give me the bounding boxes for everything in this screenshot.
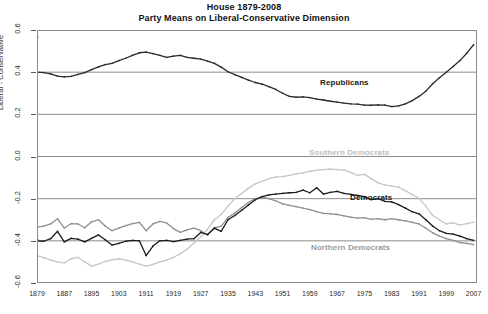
series-label-democrats: Democrats [350, 193, 392, 202]
series-point [384, 184, 385, 185]
series-point [173, 55, 174, 56]
series-point [77, 74, 78, 75]
series-point [302, 172, 303, 173]
series-point [98, 234, 99, 235]
series-point [452, 66, 453, 67]
series-point [43, 257, 44, 258]
series-point [261, 196, 262, 197]
series-point [418, 96, 419, 97]
series-point [220, 231, 221, 232]
series-point [227, 205, 228, 206]
series-point [391, 185, 392, 186]
x-axis-tick-label: 1983 [379, 290, 405, 297]
series-point [459, 236, 460, 237]
series-point [111, 244, 112, 245]
series-point [391, 106, 392, 107]
series-point [446, 223, 447, 224]
series-point [371, 105, 372, 106]
plot-area [37, 30, 477, 283]
series-point [473, 44, 474, 45]
series-point [261, 181, 262, 182]
series-point [255, 183, 256, 184]
series-point [43, 241, 44, 242]
series-point [173, 228, 174, 229]
series-point [152, 245, 153, 246]
series-point [220, 214, 221, 215]
y-axis-tick-label: 0.4 [13, 60, 22, 82]
series-point [411, 211, 412, 212]
series-point [84, 227, 85, 228]
series-point [111, 63, 112, 64]
series-point [234, 215, 235, 216]
series-point [64, 262, 65, 263]
series-point [323, 213, 324, 214]
series-point [405, 190, 406, 191]
series-point [186, 229, 187, 230]
series-point [309, 171, 310, 172]
series-point [452, 233, 453, 234]
series-point [77, 223, 78, 224]
series-point [220, 225, 221, 226]
series-point [139, 263, 140, 264]
series-point [255, 199, 256, 200]
series-point [364, 217, 365, 218]
x-axis-tick-label: 2007 [461, 290, 487, 297]
series-point [316, 187, 317, 188]
series-point [398, 204, 399, 205]
y-axis-tick-label: -0.6 [13, 271, 22, 293]
series-point [77, 257, 78, 258]
series-point [432, 225, 433, 226]
x-axis-tick-label: 1959 [297, 290, 323, 297]
series-point [398, 105, 399, 106]
series-point [132, 261, 133, 262]
series-point [323, 193, 324, 194]
series-point [207, 229, 208, 230]
series-point [350, 103, 351, 104]
series-point [180, 253, 181, 254]
series-point [180, 55, 181, 56]
y-axis-tick-label: 0.6 [13, 18, 22, 40]
series-point [255, 82, 256, 83]
series-point [145, 51, 146, 52]
series-point [125, 241, 126, 242]
series-point [425, 90, 426, 91]
x-axis-tick-label: 1975 [351, 290, 377, 297]
series-point [473, 240, 474, 241]
series-point [125, 225, 126, 226]
series-point [132, 55, 133, 56]
series-point [446, 71, 447, 72]
series-point [70, 258, 71, 259]
series-point [200, 58, 201, 59]
series-point [159, 55, 160, 56]
series-point [289, 175, 290, 176]
series-point [186, 57, 187, 58]
series-point [145, 265, 146, 266]
series-point [214, 63, 215, 64]
series-point [139, 52, 140, 53]
series-point [207, 234, 208, 235]
series-point [166, 57, 167, 58]
series-point [275, 200, 276, 201]
series-point [125, 260, 126, 261]
series-point [145, 255, 146, 256]
series-point [98, 263, 99, 264]
series-point [84, 241, 85, 242]
series-point [302, 96, 303, 97]
series-point [439, 219, 440, 220]
series-point [357, 217, 358, 218]
series-point [268, 86, 269, 87]
series-point [139, 240, 140, 241]
series-point [466, 238, 467, 239]
series-point [70, 223, 71, 224]
series-point [227, 71, 228, 72]
series-point [405, 103, 406, 104]
series-point [302, 207, 303, 208]
series-point [302, 190, 303, 191]
series-point [166, 222, 167, 223]
series-point [425, 219, 426, 220]
series-point [152, 53, 153, 54]
series-point [50, 238, 51, 239]
series-point [193, 238, 194, 239]
series-point [371, 178, 372, 179]
series-point [296, 97, 297, 98]
